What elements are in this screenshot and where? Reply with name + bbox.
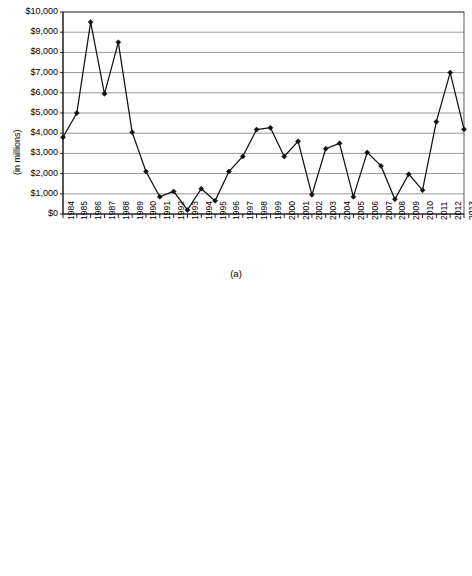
figure-two-panel-timeseries: (in millions) $0$1,000$2,000$3,000$4,000… xyxy=(0,0,472,576)
panel-caption-a: (a) xyxy=(0,268,472,279)
x-tick-label: 1996 xyxy=(232,201,241,220)
x-tick-label: 2004 xyxy=(343,201,352,220)
data-point-marker xyxy=(268,125,273,130)
x-tick-label: 1993 xyxy=(191,201,200,220)
x-tick-label: 1987 xyxy=(108,201,117,220)
x-tick-label: 1997 xyxy=(246,201,255,220)
x-tick-label: 2009 xyxy=(412,201,421,220)
plot-area-a xyxy=(0,0,472,230)
data-point-marker xyxy=(61,135,66,140)
x-tick-label: 1984 xyxy=(67,201,76,220)
data-point-marker xyxy=(448,70,453,75)
x-tick-label: 2012 xyxy=(454,201,463,220)
x-tick-label: 1991 xyxy=(163,201,172,220)
x-tick-label: 2013 xyxy=(468,201,472,220)
x-tick-label: 1986 xyxy=(94,201,103,220)
x-tick-label: 2010 xyxy=(426,201,435,220)
x-tick-label: 1995 xyxy=(219,201,228,220)
x-tick-label: 2001 xyxy=(302,201,311,220)
data-point-marker xyxy=(102,91,107,96)
x-tick-label: 2011 xyxy=(440,202,449,220)
data-point-marker xyxy=(462,127,467,132)
x-tick-label: 1985 xyxy=(80,201,89,220)
x-tick-label: 2003 xyxy=(329,201,338,220)
chart-panel-a: (in millions) $0$1,000$2,000$3,000$4,000… xyxy=(0,0,472,288)
x-tick-label: 1990 xyxy=(149,201,158,220)
series-line xyxy=(63,22,464,210)
x-tick-label: 1999 xyxy=(274,201,283,220)
x-tick-label: 2007 xyxy=(385,201,394,220)
data-point-marker xyxy=(434,119,439,124)
x-tick-label: 2005 xyxy=(357,201,366,220)
data-point-marker xyxy=(116,40,121,45)
data-point-marker xyxy=(157,194,162,199)
x-tick-label: 1989 xyxy=(136,201,145,220)
x-tick-label: 1992 xyxy=(177,201,186,220)
data-point-marker xyxy=(254,127,259,132)
x-tick-label: 2006 xyxy=(371,201,380,220)
x-tick-label: 2000 xyxy=(288,201,297,220)
data-point-marker xyxy=(351,194,356,199)
data-point-marker xyxy=(337,141,342,146)
x-tick-label: 2008 xyxy=(398,201,407,220)
chart-panel-b: 0255075100125150175200 19841985198619871… xyxy=(0,288,472,576)
data-point-marker xyxy=(74,111,79,116)
data-point-marker xyxy=(323,146,328,151)
data-point-marker xyxy=(130,130,135,135)
x-tick-label: 2002 xyxy=(315,201,324,220)
x-tick-label: 1998 xyxy=(260,201,269,220)
x-tick-label: 1988 xyxy=(122,201,131,220)
data-point-marker xyxy=(309,192,314,197)
data-point-marker xyxy=(88,20,93,25)
x-tick-label: 1994 xyxy=(205,201,214,220)
